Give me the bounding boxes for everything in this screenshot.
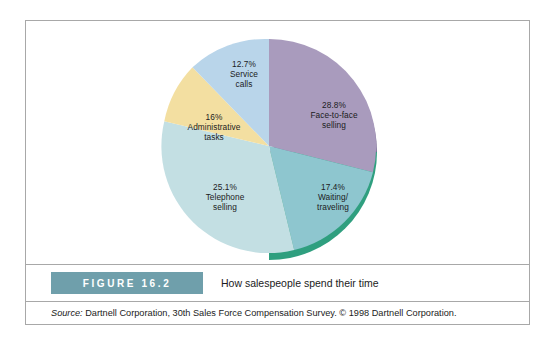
source-row: Source: Dartnell Corporation, 30th Sales… xyxy=(26,302,529,324)
pie-chart-area: 28.8% Face-to-face selling 17.4% Waiting… xyxy=(26,21,529,264)
pie-label-service-calls: 12.7% Service calls xyxy=(212,59,276,90)
figure-caption: How salespeople spend their time xyxy=(221,277,379,289)
source-detail: Dartnell Corporation, 30th Sales Force C… xyxy=(83,308,457,318)
pie-label-administrative-tasks: 16% Administrative tasks xyxy=(166,112,262,143)
pie-chart: 28.8% Face-to-face selling 17.4% Waiting… xyxy=(154,31,384,261)
pie-label-face-to-face-selling: 28.8% Face-to-face selling xyxy=(291,100,377,131)
figure-number-tag: FIGURE 16.2 xyxy=(51,272,203,294)
source-prefix: Source: xyxy=(51,308,83,318)
pie-label-waiting-traveling: 17.4% Waiting/ traveling xyxy=(293,182,373,213)
pie-label-telephone-selling: 25.1% Telephone selling xyxy=(183,182,267,213)
figure-frame: 28.8% Face-to-face selling 17.4% Waiting… xyxy=(25,20,530,325)
caption-row: FIGURE 16.2 How salespeople spend their … xyxy=(26,265,529,301)
figure-source: Source: Dartnell Corporation, 30th Sales… xyxy=(51,308,456,318)
